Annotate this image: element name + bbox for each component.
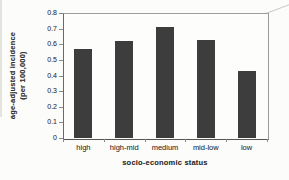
y-axis-tick-label: 0.8 [27,8,57,18]
bar-medium [156,27,174,138]
y-axis-tick-mark [59,60,63,61]
x-axis-tick-mark [145,139,146,142]
x-axis-tick-mark [267,139,268,142]
y-axis-tick-mark [59,107,63,108]
scan-artifact-diagonal [266,4,289,14]
x-axis-category-label: medium [144,143,186,152]
y-axis-tick-label: 0.7 [27,24,57,34]
x-axis-tick-mark [185,139,186,142]
y-axis-tick-label: 0.1 [27,117,57,127]
bar-high-mid [115,41,133,138]
x-axis-title: socio-economic status [63,158,267,167]
x-axis-tick-mark [104,139,105,142]
x-axis-tick-mark [63,139,64,142]
bar-high [74,49,92,138]
x-axis-category-label: high-mid [103,143,145,152]
y-axis-tick-mark [59,91,63,92]
y-axis-title-line1: age-adjusted incidence [8,13,18,138]
y-axis-tick-label: 0.5 [27,55,57,65]
y-axis-tick-mark [59,29,63,30]
y-axis-tick-label: 0.3 [27,86,57,96]
scan-artifact-left-edge [0,0,2,117]
y-axis-tick-label: 0 [27,133,57,143]
y-axis-tick-label: 0.6 [27,39,57,49]
y-axis-tick-mark [59,13,63,14]
y-axis-tick-mark [59,44,63,45]
y-axis-tick-mark [59,76,63,77]
scanned-bar-chart: age-adjusted incidence (per 100,000) soc… [0,0,289,180]
y-axis-tick-label: 0.4 [27,71,57,81]
y-axis-tick-mark [59,122,63,123]
bar-mid-low [197,40,215,138]
y-axis-tick-label: 0.2 [27,102,57,112]
x-axis-category-label: mid-low [185,143,227,152]
bar-low [238,71,256,138]
x-axis-category-label: high [62,143,104,152]
x-axis-tick-mark [226,139,227,142]
x-axis-category-label: low [226,143,268,152]
